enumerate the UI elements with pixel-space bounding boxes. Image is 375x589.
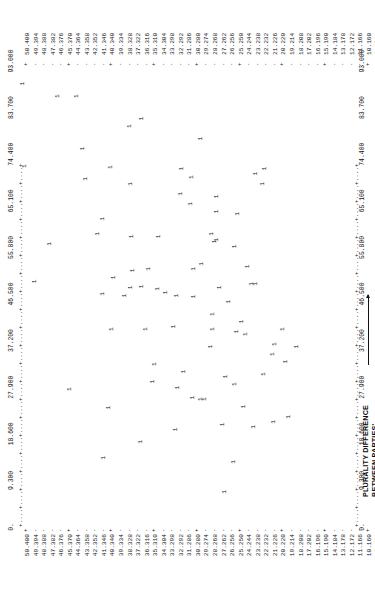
ordinate-value-column-right: 50.40049.39448.38847.38246.37645.37044.3… <box>24 0 375 58</box>
data-point: 1 <box>74 94 80 98</box>
ordinate-value: 20.220 <box>280 0 289 58</box>
data-point: 1 <box>202 397 208 401</box>
axis-tick: . <box>142 522 151 532</box>
data-point: 1 <box>283 360 289 364</box>
ordinate-value: 33.298 <box>169 531 178 589</box>
ordinate-value: 36.316 <box>144 0 153 58</box>
ordinate-value: 24.244 <box>246 531 255 589</box>
data-point: 1 <box>191 267 197 271</box>
axis-tick: . <box>82 522 91 532</box>
ordinate-value: 22.232 <box>263 531 272 589</box>
data-point: 1 <box>198 137 204 141</box>
ordinate-value: 39.334 <box>118 531 127 589</box>
axis-tick: . <box>287 522 296 532</box>
data-point: 1 <box>232 382 238 386</box>
data-point: 1 <box>271 420 277 424</box>
axis-tick: . <box>90 522 99 532</box>
data-point: 1 <box>260 182 266 186</box>
data-point: 1 <box>175 386 181 390</box>
data-point: 1 <box>108 165 114 169</box>
axis-left-tickmarks: +....+....+....+....+....+....+....+....… <box>22 522 375 532</box>
data-point: 1 <box>152 362 158 366</box>
ordinate-value: 39.334 <box>118 0 127 58</box>
axis-tick: . <box>125 522 134 532</box>
axis-tick: . <box>261 522 270 532</box>
axis-tick: . <box>99 522 108 532</box>
caption-arrow-up <box>364 291 373 365</box>
ordinate-value: 19.214 <box>289 531 298 589</box>
axis-tick: . <box>176 522 185 532</box>
ordinate-value: 43.358 <box>84 531 93 589</box>
data-point: 1 <box>214 194 220 198</box>
ordinate-value: 28.268 <box>212 0 221 58</box>
data-point: 1 <box>83 177 89 181</box>
data-point: 1 <box>220 422 226 426</box>
x-tick-label: 37.200 <box>8 329 15 352</box>
ordinate-value: 15.190 <box>323 0 332 58</box>
data-point: 1 <box>178 192 184 196</box>
data-point: 1 <box>262 167 268 171</box>
x-tick-label: 0. <box>8 523 15 531</box>
x-tick-label: 9.300 <box>8 471 15 490</box>
data-point: 1 <box>270 352 276 356</box>
axis-tick: + <box>236 522 245 532</box>
axis-tick: . <box>56 522 65 532</box>
ordinate-value: 50.400 <box>24 0 33 58</box>
data-point: 1 <box>179 167 185 171</box>
ordinate-value: 31.286 <box>186 0 195 58</box>
ordinate-value: 36.316 <box>144 531 153 589</box>
data-point: 1 <box>243 332 249 336</box>
data-point: 1 <box>272 342 278 346</box>
data-point: 1 <box>286 415 292 419</box>
axis-tick: . <box>133 522 142 532</box>
axis-tick: . <box>270 522 279 532</box>
ordinate-value: 15.190 <box>323 531 332 589</box>
data-point: 1 <box>155 287 161 291</box>
x-tick-label: 83.700 <box>8 96 15 119</box>
ordinate-value: 17.202 <box>306 531 315 589</box>
x-tick-label: 74.400 <box>8 143 15 166</box>
x-tick-label: 65.100 <box>8 189 15 212</box>
ordinate-value: 50.400 <box>24 531 33 589</box>
data-point: 1 <box>139 285 145 289</box>
data-point: 1 <box>217 286 223 290</box>
data-point: 1 <box>191 295 197 299</box>
ordinate-value: 34.304 <box>161 0 170 58</box>
data-point: 1 <box>128 182 134 186</box>
data-point: 1 <box>163 291 169 295</box>
x-tick-label: 83.700 <box>359 96 366 119</box>
ordinate-value: 38.328 <box>127 0 136 58</box>
ordinate-value: 43.358 <box>84 0 93 58</box>
ordinate-value: 26.256 <box>229 531 238 589</box>
data-point: 1 <box>126 124 132 128</box>
data-point: 1 <box>111 276 117 280</box>
data-point: 1 <box>214 238 220 242</box>
data-point: 1 <box>190 396 196 400</box>
axis-tick: . <box>48 522 57 532</box>
ordinate-value: 25.250 <box>238 531 247 589</box>
axis-tick: . <box>219 522 228 532</box>
data-point: 1 <box>150 380 156 384</box>
ordinate-value: 21.226 <box>272 0 281 58</box>
axis-tick: . <box>39 522 48 532</box>
ordinate-value: 20.220 <box>280 531 289 589</box>
data-point: 1 <box>95 232 101 236</box>
data-point: 1 <box>138 440 144 444</box>
data-point: 1 <box>22 164 28 168</box>
ordinate-value: 17.202 <box>306 0 315 58</box>
data-point: 1 <box>189 175 195 179</box>
ordinate-value: 16.196 <box>315 0 324 58</box>
axis-caption-block: PLURALITY DIFFERENCE BETWEEN PARTIES' PE… <box>362 197 375 497</box>
ordinate-value: 30.280 <box>195 531 204 589</box>
plot-frame: +....+....+....+....+....+....+....+....… <box>22 61 354 527</box>
data-point: 1 <box>101 456 107 460</box>
axis-tick: + <box>321 522 330 532</box>
data-point: 1 <box>210 327 216 331</box>
ordinate-value: 18.208 <box>298 0 307 58</box>
data-point: 1 <box>294 345 300 349</box>
ordinate-value: 46.376 <box>58 531 67 589</box>
x-tick-label: 27.900 <box>8 376 15 399</box>
ordinate-value: 28.268 <box>212 531 221 589</box>
data-point: 1 <box>280 327 286 331</box>
axis-tick: . <box>31 522 40 532</box>
